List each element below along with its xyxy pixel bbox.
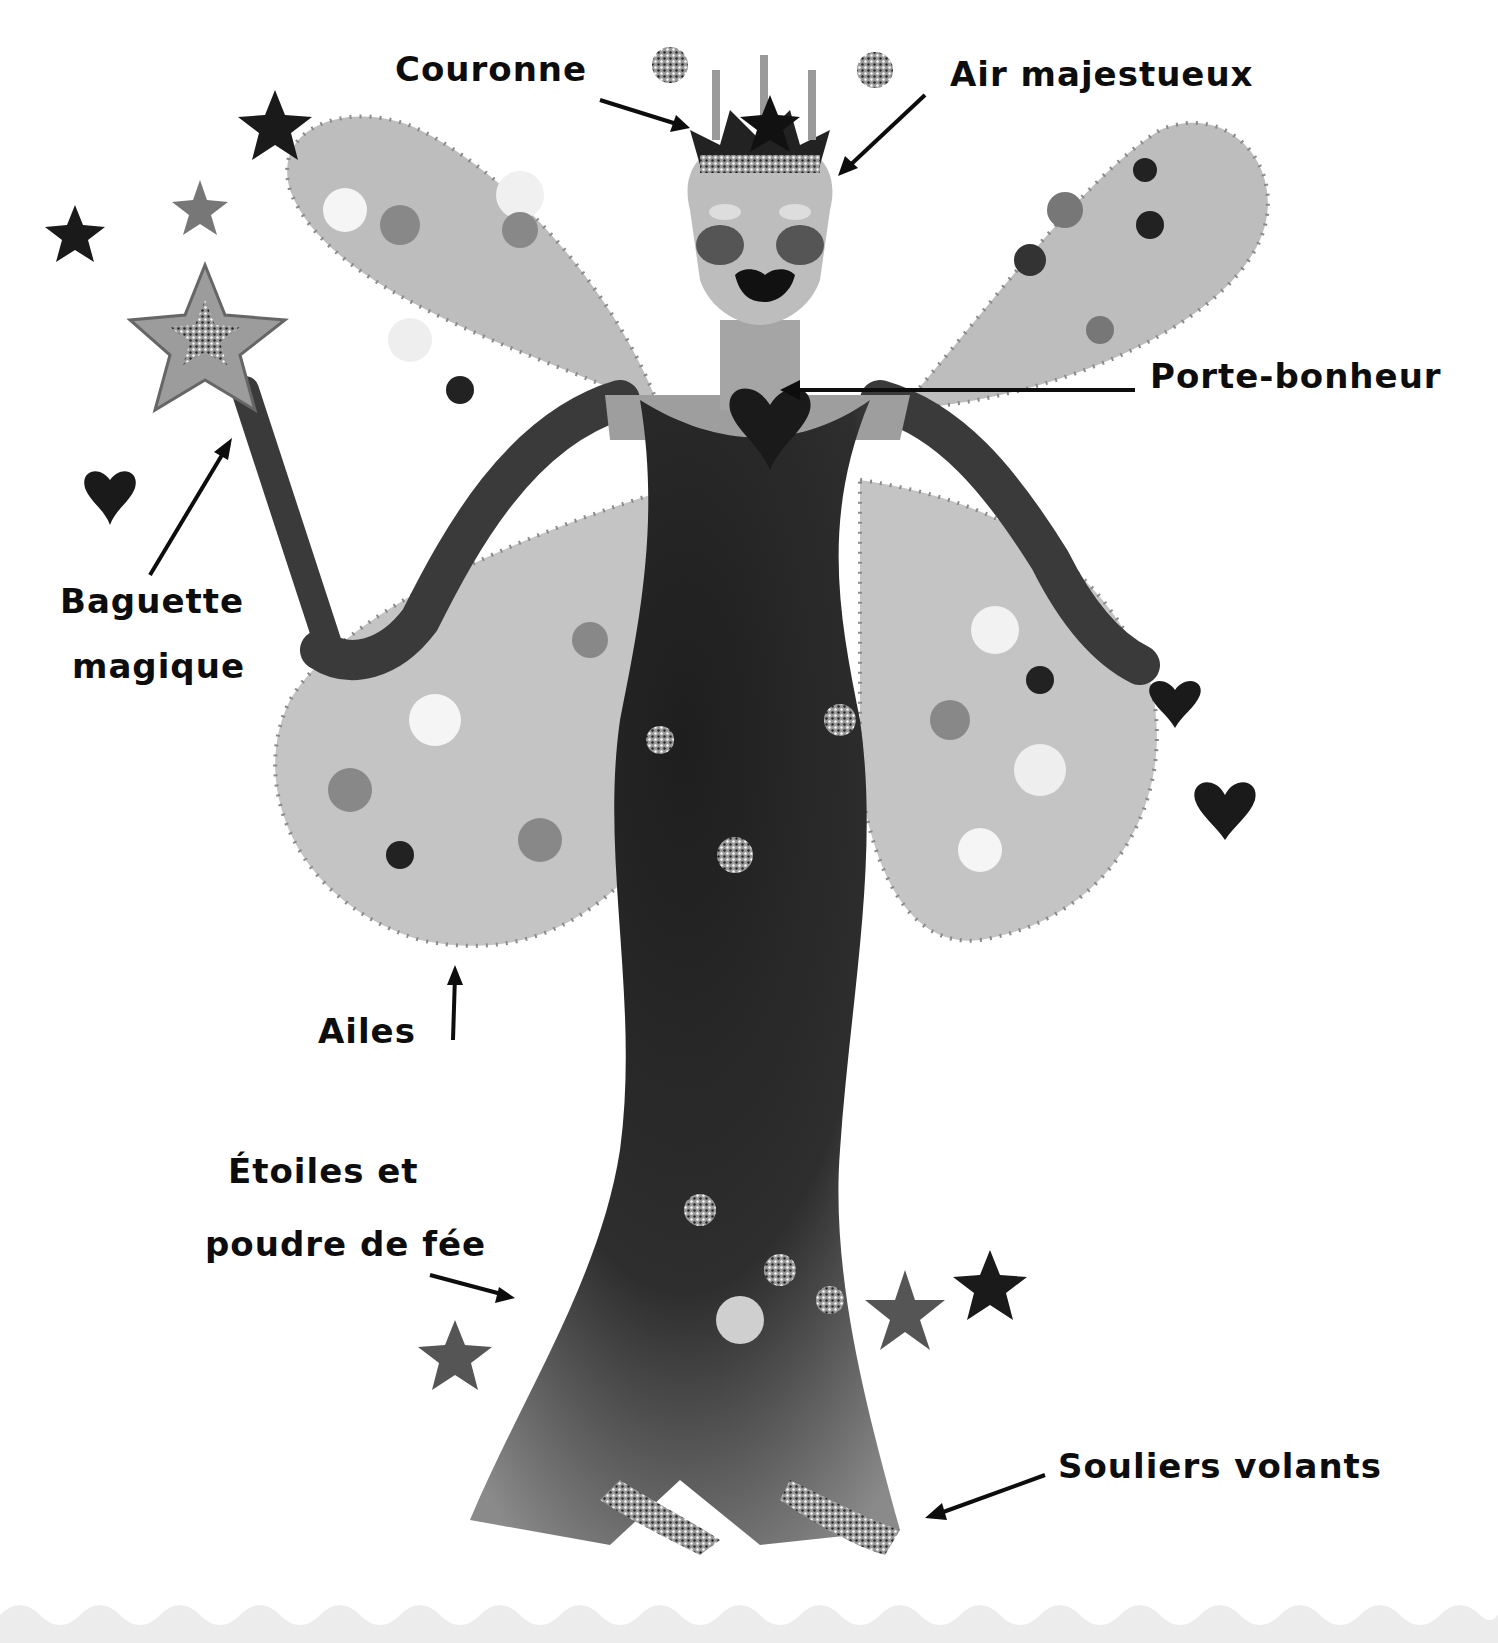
upper-left-wing — [287, 117, 660, 411]
label-wings: Ailes — [318, 1010, 416, 1053]
label-crown: Couronne — [395, 48, 587, 91]
label-stars-line2: poudre de fée — [205, 1223, 486, 1266]
label-flying-shoes: Souliers volants — [1058, 1445, 1382, 1488]
label-wand-line2: magique — [72, 645, 245, 688]
fairy-illustration — [0, 0, 1498, 1643]
label-majestic-air: Air majestueux — [950, 53, 1254, 96]
label-lucky-charm: Porte-bonheur — [1150, 355, 1442, 398]
crown — [652, 47, 893, 173]
wavy-border — [0, 1595, 1498, 1643]
label-wand-line1: Baguette — [60, 580, 244, 623]
lower-right-wing — [860, 480, 1157, 941]
label-stars-line1: Étoiles et — [228, 1150, 419, 1193]
